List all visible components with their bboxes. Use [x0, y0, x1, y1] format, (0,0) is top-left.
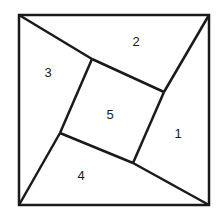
pinwheel-diagram: 1 2 3 4 5: [0, 0, 222, 216]
edge-top-left: [19, 15, 92, 59]
region-3-label: 3: [44, 65, 51, 80]
region-5-label: 5: [106, 107, 113, 122]
inner-edge-right: [133, 92, 164, 163]
region-4-label: 4: [77, 168, 84, 183]
edge-top-right: [164, 15, 209, 92]
inner-edge-left: [60, 59, 92, 133]
edge-bottom-right: [133, 163, 209, 205]
outer-square: [19, 15, 209, 205]
region-2-label: 2: [132, 34, 139, 49]
inner-edge-bottom: [60, 133, 133, 163]
region-1-label: 1: [174, 126, 181, 141]
edge-bottom-left: [19, 133, 60, 205]
inner-edge-top: [92, 59, 164, 92]
